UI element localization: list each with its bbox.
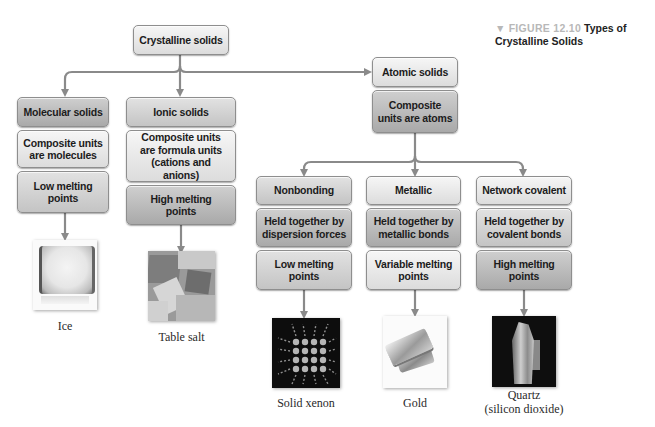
ice-image: [33, 240, 97, 310]
node-network-covalent: Network covalent: [476, 176, 572, 205]
ice-caption: Ice: [33, 319, 97, 333]
solid-xenon-caption: Solid xenon: [256, 396, 356, 410]
figure-caption: ▼ FIGURE 12.10 Types of Crystalline Soli…: [495, 22, 655, 48]
node-metallic: Metallic: [366, 176, 461, 205]
table-salt-caption: Table salt: [138, 330, 225, 344]
quartz-image: [492, 316, 556, 387]
solid-xenon-image: [272, 318, 340, 388]
figure-title-line1: Types of: [584, 22, 626, 34]
node-metallic-melting: Variable melting points: [366, 250, 461, 290]
node-nonbonding-force: Held together by dispersion forces: [256, 208, 352, 247]
gold-image: [383, 316, 447, 388]
table-salt-image: [148, 251, 215, 321]
node-ionic-melting: High melting points: [126, 185, 236, 225]
figure-marker: ▼: [495, 22, 506, 34]
xenon-lattice-graphic: [272, 318, 340, 388]
node-molecular-melting: Low melting points: [17, 171, 109, 213]
node-crystalline-solids: Crystalline solids: [133, 25, 229, 55]
node-molecular-units: Composite units are molecules: [17, 130, 109, 168]
node-atomic-units: Composite units are atoms: [372, 90, 458, 133]
figure-number: FIGURE 12.10: [509, 22, 581, 34]
node-ionic-units: Composite units are formula units (catio…: [126, 130, 236, 182]
node-nonbonding-melting: Low melting points: [256, 250, 352, 290]
quartz-caption-line1: Quartz: [508, 388, 541, 402]
quartz-caption-line2: (silicon dioxide): [485, 402, 564, 416]
node-metallic-force: Held together by metallic bonds: [366, 208, 461, 247]
node-network-melting: High melting points: [476, 250, 572, 290]
node-ionic-solids: Ionic solids: [126, 97, 236, 127]
quartz-caption: Quartz (silicon dioxide): [470, 388, 578, 416]
gold-caption: Gold: [375, 396, 455, 410]
node-atomic-solids: Atomic solids: [372, 57, 458, 87]
node-nonbonding: Nonbonding: [256, 176, 352, 205]
node-network-force: Held together by covalent bonds: [476, 208, 572, 247]
node-molecular-solids: Molecular solids: [17, 97, 109, 127]
figure-title-line2: Crystalline Solids: [495, 35, 583, 47]
